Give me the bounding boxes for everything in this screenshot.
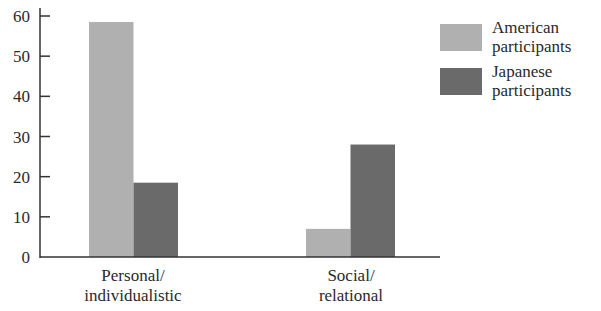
category-label: relational xyxy=(319,286,383,305)
y-tick-label: 50 xyxy=(13,47,30,66)
category-label: Social/ xyxy=(327,266,374,285)
legend-label-japanese-line2: participants xyxy=(492,81,571,100)
x-axis: Personal/individualisticSocial/relationa… xyxy=(40,257,440,305)
legend-label-american-line2: participants xyxy=(492,37,571,56)
legend-swatch-japanese xyxy=(440,68,482,95)
bars xyxy=(89,22,395,257)
y-tick-label: 30 xyxy=(13,128,30,147)
category-label: individualistic xyxy=(84,286,182,305)
legend-label-japanese-line1: Japanese xyxy=(492,62,571,81)
bar-japanese-1 xyxy=(351,145,396,257)
bar-japanese-0 xyxy=(134,183,179,257)
category-label: Personal/ xyxy=(101,266,165,285)
bar-american-1 xyxy=(306,229,351,257)
y-tick-label: 20 xyxy=(13,168,30,187)
legend-swatch-american xyxy=(440,24,482,51)
legend-item-japanese: Japanese participants xyxy=(440,62,571,100)
legend-label-american-line1: American xyxy=(492,18,571,37)
y-tick-label: 40 xyxy=(13,87,30,106)
legend: American participants Japanese participa… xyxy=(440,18,571,106)
y-tick-label: 0 xyxy=(22,248,31,267)
y-axis: 0102030405060 xyxy=(13,7,50,267)
y-tick-label: 60 xyxy=(13,7,30,26)
legend-item-american: American participants xyxy=(440,18,571,56)
y-tick-label: 10 xyxy=(13,208,30,227)
bar-american-0 xyxy=(89,22,134,257)
